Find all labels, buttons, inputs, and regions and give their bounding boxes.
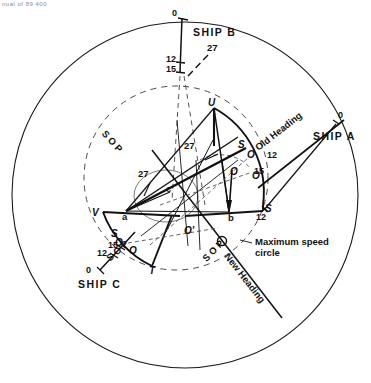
ship-a-vector [264, 124, 336, 210]
baseline-a-b [126, 211, 229, 212]
sector-edge-t [152, 215, 172, 266]
diagram-canvas [0, 0, 371, 383]
ship-b-vector [180, 18, 182, 72]
ship-b-27-leader [188, 55, 208, 76]
line-a-to-c [126, 192, 170, 211]
ship-b-tick-0 [178, 18, 188, 20]
ship-c-tick-0 [97, 267, 104, 274]
ship-b-sop-right [184, 76, 205, 205]
relative-motion-diagram: nual of 89 400 SHIP B 0 12 15 27 SHIP A … [0, 0, 371, 383]
ship-b-tick-12 [176, 62, 185, 63]
ship-a-tick-0 [333, 120, 339, 124]
ship-b-tick-15 [176, 72, 185, 73]
